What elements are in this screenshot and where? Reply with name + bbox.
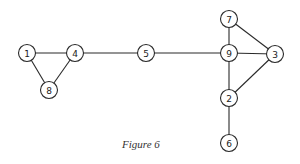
svg-text:8: 8 <box>46 86 52 96</box>
svg-text:4: 4 <box>72 49 78 59</box>
node-8: 8 <box>41 82 58 99</box>
graph-nodes: 148597326 <box>19 11 284 152</box>
svg-text:5: 5 <box>143 49 149 59</box>
svg-text:1: 1 <box>24 49 30 59</box>
node-5: 5 <box>138 45 155 62</box>
node-1: 1 <box>19 45 36 62</box>
edge-2-3 <box>229 54 275 98</box>
node-4: 4 <box>67 45 84 62</box>
svg-text:7: 7 <box>226 15 232 25</box>
svg-text:3: 3 <box>272 50 278 60</box>
graph-edges <box>27 19 275 143</box>
figure-caption: Figure 6 <box>122 138 160 150</box>
node-9: 9 <box>221 45 238 62</box>
svg-text:9: 9 <box>226 49 232 59</box>
node-7: 7 <box>221 11 238 28</box>
node-6: 6 <box>221 135 238 152</box>
node-3: 3 <box>267 46 284 63</box>
svg-text:6: 6 <box>226 139 232 149</box>
svg-text:2: 2 <box>226 94 232 104</box>
node-2: 2 <box>221 90 238 107</box>
